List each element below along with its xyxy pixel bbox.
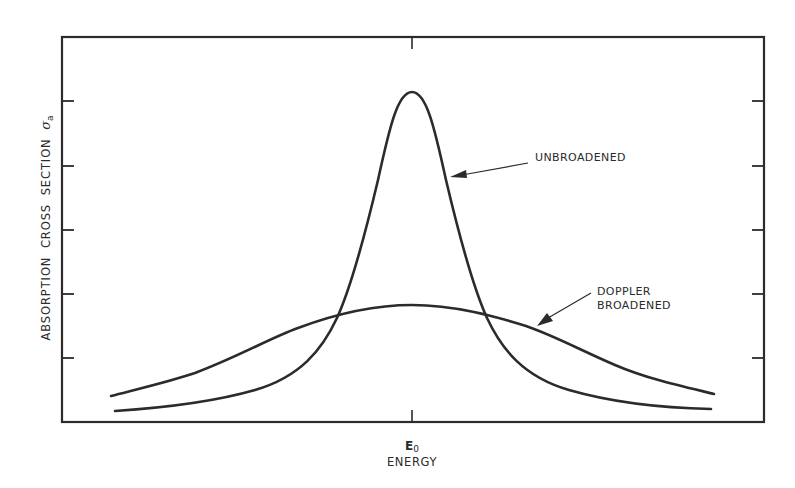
x-axis-label: ENERGY xyxy=(387,455,437,469)
y-axis-label-text: ABSORPTION CROSS SECTION xyxy=(39,138,53,340)
x-tick-subscript: 0 xyxy=(413,444,419,454)
unbroadened-arrow xyxy=(450,163,528,178)
y-axis-label: ABSORPTION CROSS SECTION σa xyxy=(38,115,53,340)
doppler-label-line2: BROADENED xyxy=(597,299,671,313)
sigma-subscript: a xyxy=(45,115,55,121)
unbroadened-curve xyxy=(115,92,711,411)
plot-frame xyxy=(62,37,764,422)
x-tick-main: E xyxy=(405,439,413,453)
doppler-label-line1: DOPPLER xyxy=(597,285,651,299)
chart-canvas xyxy=(0,0,795,488)
x-tick-label-e0: E0 xyxy=(405,439,419,453)
unbroadened-label: UNBROADENED xyxy=(535,151,626,165)
sigma-symbol: σ xyxy=(38,121,53,130)
left-y-ticks xyxy=(62,101,74,358)
right-y-ticks xyxy=(752,101,764,358)
doppler-broadened-curve xyxy=(111,305,714,396)
doppler-arrow xyxy=(537,293,591,326)
